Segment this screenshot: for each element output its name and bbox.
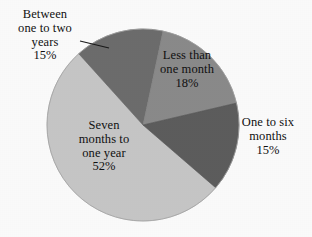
pie-label-between-one-to-two-years: Between one to two years 15% (2, 8, 88, 63)
pie-label-less-than-one-month: Less than one month 18% (146, 49, 228, 90)
pie-label-seven-months-to-one-year: Seven months to one year 52% (61, 119, 147, 174)
pie-label-one-to-six-months: One to six months 15% (225, 116, 311, 157)
pie-chart: Between one to two years 15% Less than o… (0, 0, 312, 237)
